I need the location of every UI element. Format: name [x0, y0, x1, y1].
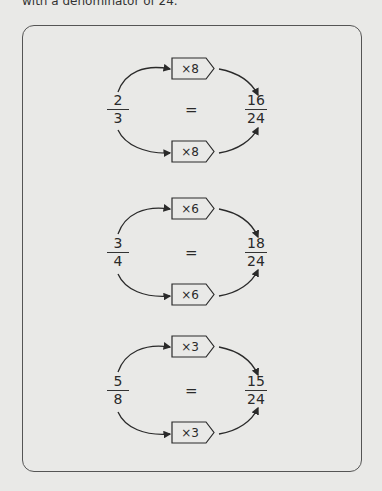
- multiplier-label: ×8: [181, 62, 199, 76]
- right-fraction: 16 24: [241, 93, 271, 126]
- top-multiplier-tag: ×8: [172, 58, 214, 80]
- numerator: 16: [241, 93, 271, 109]
- right-fraction: 15 24: [241, 374, 271, 407]
- multiplier-label: ×6: [181, 288, 199, 302]
- right-fraction: 18 24: [241, 236, 271, 269]
- equals-sign: =: [185, 101, 198, 119]
- fraction-diagram-2: ×6 ×6 3 4 = 18 24: [0, 190, 382, 310]
- denominator: 4: [103, 253, 133, 269]
- fraction-diagram-1: ×8 ×8 2 3 = 16 24: [0, 50, 382, 170]
- bottom-multiplier-tag: ×8: [172, 141, 214, 163]
- fraction-diagram-3: ×3 ×3 5 8 = 15 24: [0, 328, 382, 448]
- denominator: 24: [241, 253, 271, 269]
- top-multiplier-tag: ×3: [172, 336, 214, 358]
- instruction-text: with a denominator of 24.: [22, 0, 178, 8]
- numerator: 5: [103, 374, 133, 390]
- left-fraction: 3 4: [103, 236, 133, 269]
- multiplier-label: ×3: [181, 426, 199, 440]
- denominator: 24: [241, 391, 271, 407]
- multiplier-label: ×6: [181, 202, 199, 216]
- denominator: 3: [103, 110, 133, 126]
- multiplier-label: ×8: [181, 145, 199, 159]
- denominator: 24: [241, 110, 271, 126]
- numerator: 2: [103, 93, 133, 109]
- top-multiplier-tag: ×6: [172, 198, 214, 220]
- numerator: 15: [241, 374, 271, 390]
- equals-sign: =: [185, 382, 198, 400]
- bottom-multiplier-tag: ×6: [172, 284, 214, 306]
- left-fraction: 2 3: [103, 93, 133, 126]
- equals-sign: =: [185, 244, 198, 262]
- numerator: 18: [241, 236, 271, 252]
- multiplier-label: ×3: [181, 340, 199, 354]
- left-fraction: 5 8: [103, 374, 133, 407]
- numerator: 3: [103, 236, 133, 252]
- denominator: 8: [103, 391, 133, 407]
- bottom-multiplier-tag: ×3: [172, 422, 214, 444]
